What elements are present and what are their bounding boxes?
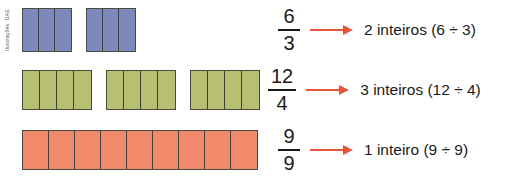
bar-part xyxy=(75,131,101,169)
bar-group xyxy=(22,70,92,110)
bar-part xyxy=(49,131,75,169)
arrow-right-icon xyxy=(306,84,352,96)
arrow-head xyxy=(343,25,353,35)
bar-part xyxy=(141,71,158,109)
bar-part xyxy=(87,9,103,51)
bar-group xyxy=(106,70,176,110)
bar-group xyxy=(190,70,260,110)
bar-part xyxy=(74,71,91,109)
arrow-head xyxy=(343,145,353,155)
expression-group: 6 3 2 inteiros (6 ÷ 3) xyxy=(278,0,476,60)
arrow-shaft xyxy=(310,29,346,31)
fraction-bar xyxy=(278,29,300,31)
arrow-right-icon xyxy=(310,24,356,36)
bar-part xyxy=(179,131,205,169)
bar-part xyxy=(205,131,231,169)
fraction-denominator: 9 xyxy=(280,153,297,174)
fraction-row: 6 3 2 inteiros (6 ÷ 3) xyxy=(0,0,522,60)
bar-group xyxy=(22,8,72,52)
bar-part xyxy=(225,71,242,109)
bar-part xyxy=(208,71,225,109)
bar-diagram xyxy=(22,60,260,120)
bar-part xyxy=(39,9,55,51)
arrow-shaft xyxy=(310,149,346,151)
bar-group xyxy=(22,130,258,170)
fraction-numerator: 6 xyxy=(280,6,297,27)
bar-part xyxy=(153,131,179,169)
fraction-bar xyxy=(278,149,300,151)
bar-part xyxy=(57,71,74,109)
arrow-shaft xyxy=(306,89,342,91)
bar-part xyxy=(158,71,175,109)
bar-part xyxy=(127,131,153,169)
result-label: 1 inteiro (9 ÷ 9) xyxy=(364,141,468,159)
fraction-numerator: 9 xyxy=(280,126,297,147)
result-label: 3 inteiros (12 ÷ 4) xyxy=(360,81,481,99)
expression-group: 9 9 1 inteiro (9 ÷ 9) xyxy=(278,120,468,180)
bar-part xyxy=(23,131,49,169)
bar-diagram xyxy=(22,120,258,180)
result-label: 2 inteiros (6 ÷ 3) xyxy=(364,21,476,39)
bar-diagram xyxy=(22,0,136,60)
bar-part xyxy=(23,9,39,51)
bar-part xyxy=(107,71,124,109)
fraction: 6 3 xyxy=(278,6,300,54)
fraction-numerator: 12 xyxy=(268,66,296,87)
bar-group xyxy=(86,8,136,52)
bar-part xyxy=(55,9,71,51)
fraction-denominator: 3 xyxy=(280,33,297,54)
bar-part xyxy=(124,71,141,109)
bar-part xyxy=(119,9,135,51)
bar-part xyxy=(40,71,57,109)
bar-part xyxy=(191,71,208,109)
bar-part xyxy=(103,9,119,51)
bar-part xyxy=(23,71,40,109)
fraction-bar xyxy=(268,89,296,91)
expression-group: 12 4 3 inteiros (12 ÷ 4) xyxy=(268,60,481,120)
fraction-division-figure: Ilustrações: DAE 6 3 2 inteiros (6 ÷ 3) … xyxy=(0,0,522,180)
fraction-denominator: 4 xyxy=(274,93,291,114)
fraction-row: 9 9 1 inteiro (9 ÷ 9) xyxy=(0,120,522,180)
fraction-row: 12 4 3 inteiros (12 ÷ 4) xyxy=(0,60,522,120)
bar-part xyxy=(231,131,257,169)
bar-part xyxy=(101,131,127,169)
fraction: 12 4 xyxy=(268,66,296,114)
arrow-right-icon xyxy=(310,144,356,156)
arrow-head xyxy=(339,85,349,95)
fraction: 9 9 xyxy=(278,126,300,174)
bar-part xyxy=(242,71,259,109)
